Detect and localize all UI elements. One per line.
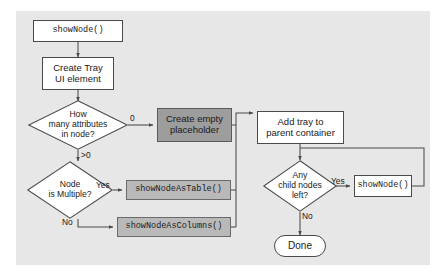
node-create-tray[interactable]: Create Tray UI element (42, 57, 114, 90)
edge-bus-to-add-tray (236, 113, 253, 125)
node-create-tray-label-line2: UI element (55, 74, 101, 85)
node-done-label: Done (288, 240, 312, 251)
decision-shape (29, 101, 127, 149)
node-recurse-show-node[interactable]: showNode() (354, 175, 412, 197)
decision-shape (28, 162, 112, 218)
node-create-empty-placeholder[interactable]: Create empty placeholder (157, 108, 232, 142)
edge-label-attributes-gt-zero: >0 (81, 150, 91, 160)
node-start-show-node[interactable]: showNode() (33, 20, 123, 42)
node-show-node-as-table[interactable]: showNodeAsTable() (126, 180, 231, 200)
node-decision-node-is-multiple[interactable]: Node is Multiple? (27, 161, 113, 219)
node-recurse-show-node-label: showNode() (357, 181, 408, 191)
edge-label-children-yes: Yes (331, 176, 345, 186)
node-decision-any-child-nodes-left[interactable]: Any child nodes left? (263, 160, 337, 212)
node-decision-how-many-attributes[interactable]: How many attributes in node? (28, 100, 128, 150)
node-show-node-as-columns[interactable]: showNodeAsColumns() (117, 217, 231, 237)
flowchart-figure: showNode() Create Tray UI element How ma… (0, 0, 444, 279)
node-start-show-node-label: showNode() (52, 26, 103, 36)
node-add-tray-line1: Add tray to (278, 117, 324, 128)
node-add-tray-line2: parent container (266, 128, 335, 139)
edge-label-multiple-no: No (62, 217, 73, 227)
edge-label-children-no: No (302, 211, 313, 221)
node-done[interactable]: Done (274, 235, 326, 257)
edge-label-multiple-yes: Yes (96, 180, 110, 190)
node-create-tray-label-line1: Create Tray (53, 63, 103, 74)
edge-label-attributes-zero: 0 (130, 113, 135, 123)
edge-multiple-no (78, 219, 113, 227)
bus-placeholder-down (232, 125, 236, 190)
node-add-tray-to-parent[interactable]: Add tray to parent container (257, 111, 344, 144)
node-show-node-as-columns-label: showNodeAsColumns() (126, 222, 223, 232)
node-placeholder-line2: placeholder (170, 125, 219, 136)
decision-shape (264, 161, 336, 211)
node-show-node-as-table-label: showNodeAsTable() (135, 185, 222, 195)
